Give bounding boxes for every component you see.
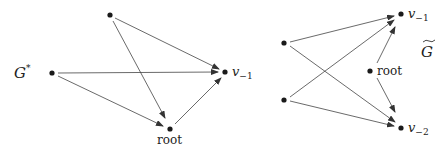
edge-root-v1	[175, 78, 221, 124]
node-n1	[281, 40, 286, 45]
node-label-v-minus-1: v−1	[408, 6, 429, 23]
graph-g-tilde: v−1 root v−2 G	[281, 6, 435, 137]
edge-a-v1	[115, 18, 219, 69]
node-v-minus-2	[398, 125, 403, 130]
node-n2	[281, 97, 286, 102]
node-label-root: root	[377, 64, 402, 78]
edge-g-root	[58, 76, 163, 126]
node-label-root: root	[157, 133, 182, 147]
graph-g-star: G* v−1 root	[14, 12, 253, 147]
edge-root-v1	[377, 27, 395, 63]
graph-label-g-tilde: G	[421, 43, 433, 61]
edge-g-v1	[58, 72, 218, 73]
node-root	[367, 68, 372, 73]
node-v-minus-1	[222, 69, 227, 74]
node-root	[167, 126, 172, 131]
node-label-v-minus-1: v−1	[232, 64, 253, 81]
graph-label-g-star: G*	[14, 63, 31, 82]
edge-n1-v1	[290, 16, 394, 42]
edge-root-v2	[377, 78, 395, 112]
node-g	[49, 70, 54, 75]
edge-n2-v1	[290, 20, 394, 97]
edge-n1-v2	[290, 46, 395, 122]
node-v-minus-1	[398, 11, 403, 16]
graph-diagram: G* v−1 root v−1 root v−2 G	[0, 0, 446, 150]
edge-a-root	[113, 21, 165, 118]
tilde-accent-icon	[423, 40, 435, 42]
node-label-v-minus-2: v−2	[408, 120, 429, 137]
node-a	[107, 12, 112, 17]
edge-n2-v2	[290, 101, 394, 126]
